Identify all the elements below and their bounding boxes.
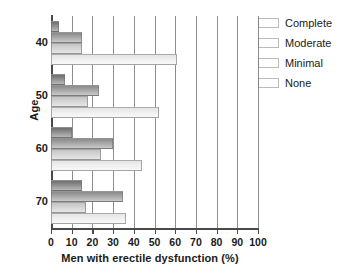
x-tick-mark-70: [196, 229, 197, 234]
legend-item-moderate[interactable]: Moderate: [258, 34, 352, 51]
x-tick-mark-80: [217, 229, 218, 234]
bar-none-age-70: [51, 213, 126, 224]
legend-label-minimal: Minimal: [285, 57, 323, 69]
legend-swatch-complete: [258, 18, 279, 28]
x-tick-mark-30: [113, 229, 114, 234]
x-tick-mark-100: [258, 229, 259, 234]
legend-item-complete[interactable]: Complete: [258, 14, 352, 31]
y-axis-tick-labels: 40506070: [16, 16, 48, 228]
legend-swatch-moderate: [258, 38, 279, 48]
x-tick-mark-40: [134, 229, 135, 234]
bar-minimal-age-60: [51, 149, 101, 160]
chart-legend: CompleteModerateMinimalNone: [258, 14, 352, 94]
bar-none-age-50: [51, 107, 159, 118]
plot-area: [51, 16, 258, 228]
x-tick-mark-90: [237, 229, 238, 234]
legend-swatch-minimal: [258, 58, 279, 68]
bar-complete-age-70: [51, 180, 82, 191]
bar-moderate-age-70: [51, 191, 123, 202]
bar-complete-age-50: [51, 74, 65, 85]
y-tick-50: 50: [22, 89, 48, 101]
legend-item-none[interactable]: None: [258, 74, 352, 91]
y-tick-40: 40: [22, 36, 48, 48]
bar-moderate-age-60: [51, 138, 113, 149]
x-tick-100: 100: [243, 236, 273, 248]
bar-group-age-70: [51, 175, 258, 228]
bar-minimal-age-70: [51, 202, 86, 213]
x-tick-mark-60: [175, 229, 176, 234]
x-tick-mark-20: [92, 229, 93, 234]
bar-group-age-50: [51, 69, 258, 122]
bar-minimal-age-50: [51, 96, 88, 107]
bar-chart: Age 40506070 Men with erectile dysfuncti…: [0, 0, 353, 280]
bar-group-age-60: [51, 122, 258, 175]
legend-label-moderate: Moderate: [285, 37, 331, 49]
bar-none-age-60: [51, 160, 142, 171]
y-tick-70: 70: [22, 195, 48, 207]
bar-moderate-age-40: [51, 32, 82, 43]
x-tick-mark-10: [72, 229, 73, 234]
bar-minimal-age-40: [51, 43, 82, 54]
legend-item-minimal[interactable]: Minimal: [258, 54, 352, 71]
legend-label-none: None: [285, 77, 311, 89]
bar-moderate-age-50: [51, 85, 99, 96]
x-tick-mark-50: [155, 229, 156, 234]
bar-group-age-40: [51, 16, 258, 69]
legend-label-complete: Complete: [285, 17, 332, 29]
y-tick-60: 60: [22, 142, 48, 154]
x-axis-title: Men with erectile dysfunction (%): [0, 252, 300, 264]
bar-complete-age-40: [51, 21, 59, 32]
bar-none-age-40: [51, 54, 177, 65]
bar-complete-age-60: [51, 127, 72, 138]
legend-swatch-none: [258, 78, 279, 88]
x-tick-mark-0: [51, 229, 52, 234]
